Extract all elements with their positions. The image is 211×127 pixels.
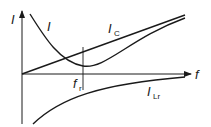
- y-axis-label: I: [11, 12, 15, 27]
- capacitor-current-subscript: C: [114, 29, 120, 38]
- inductor-current-label: I: [147, 84, 151, 99]
- capacitor-current-label: I: [108, 21, 112, 36]
- inductor-current-subscript: Lr: [153, 92, 160, 101]
- resonant-frequency-label: f: [73, 76, 78, 91]
- x-axis-label: f: [195, 67, 200, 82]
- resonant-frequency-subscript: r: [79, 84, 82, 93]
- inductor-current-curve: [33, 77, 185, 124]
- total-current-label: I: [47, 19, 51, 34]
- resonance-diagram: I f I I C I Lr f r: [0, 0, 211, 127]
